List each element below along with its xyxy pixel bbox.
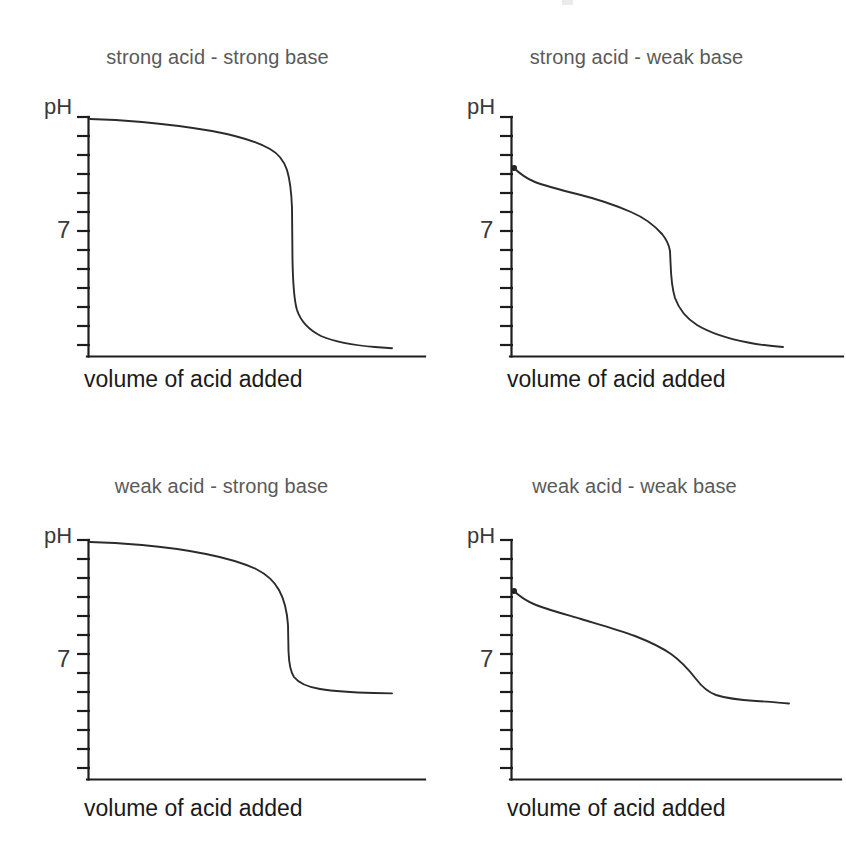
plot-area (423, 0, 846, 429)
titration-curve (513, 590, 789, 704)
panel-weak-acid-strong-base: weak acid - strong base pH 7 volume of a… (0, 429, 423, 858)
plot-area (0, 429, 423, 858)
titration-curves-figure: strong acid - strong base pH 7 volume of… (0, 0, 846, 858)
axes (87, 117, 425, 357)
panel-weak-acid-weak-base: weak acid - weak base pH 7 volume of aci… (423, 429, 846, 858)
axes (510, 117, 843, 357)
panel-grid: strong acid - strong base pH 7 volume of… (0, 0, 846, 858)
axes (87, 540, 425, 780)
axes (510, 540, 841, 780)
titration-curve (90, 119, 392, 348)
plot-area (0, 0, 423, 429)
panel-strong-acid-weak-base: strong acid - weak base pH 7 volume of a… (423, 0, 846, 429)
titration-curve (90, 542, 392, 693)
panel-strong-acid-strong-base: strong acid - strong base pH 7 volume of… (0, 0, 423, 429)
titration-curve (513, 167, 783, 347)
plot-area (423, 429, 846, 858)
